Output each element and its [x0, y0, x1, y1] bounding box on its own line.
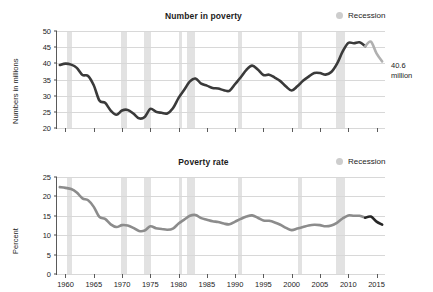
x-tick-mark	[235, 128, 236, 132]
x-tick-label: 1990	[227, 280, 244, 289]
x-tick-mark	[348, 274, 349, 278]
x-tick-mark	[377, 128, 378, 132]
x-tick-mark	[150, 128, 151, 132]
recession-swatch-icon	[336, 12, 343, 19]
x-tick-label: 1995	[255, 280, 272, 289]
y-tick-label: 50	[43, 27, 51, 36]
y-tick-label: 0	[47, 270, 51, 279]
x-tick-mark	[122, 128, 123, 132]
y-tick-label: 20	[43, 192, 51, 201]
series-line	[57, 31, 385, 128]
y-tick-label: 5	[47, 250, 51, 259]
x-tick-label: 2015	[368, 280, 385, 289]
x-tick-mark	[94, 128, 95, 132]
recession-swatch-icon	[336, 158, 343, 165]
panel-poverty-rate: Poverty rate Recession Percent 051015202…	[0, 146, 433, 292]
x-tick-label: 1970	[114, 280, 131, 289]
plot-area-bottom: 0510152025196019651970197519801985199019…	[57, 177, 385, 274]
series-segment-main	[60, 42, 365, 118]
legend-label-recession: Recession	[348, 157, 385, 166]
x-tick-mark	[65, 128, 66, 132]
x-tick-mark	[207, 128, 208, 132]
annotation-top: 40.6 million	[391, 61, 412, 80]
x-tick-mark	[122, 274, 123, 278]
x-tick-label: 2010	[340, 280, 357, 289]
poverty-charts-figure: Number in poverty Recession Numbers in m…	[0, 0, 433, 292]
x-tick-label: 1975	[142, 280, 159, 289]
x-tick-mark	[94, 274, 95, 278]
y-axis-label-top: Numbers in millions	[11, 59, 20, 124]
x-tick-mark	[348, 128, 349, 132]
y-tick-label: 30	[43, 91, 51, 100]
plot-area-top: 20253035404550	[57, 31, 385, 128]
y-axis-label-bottom: Percent	[11, 228, 20, 254]
x-tick-label: 1960	[57, 280, 74, 289]
annotation-top-unit: million	[391, 71, 412, 81]
y-tick-label: 25	[43, 173, 51, 182]
series-line	[57, 177, 385, 274]
y-tick-label: 25	[43, 107, 51, 116]
x-tick-mark	[179, 128, 180, 132]
legend-bottom: Recession	[336, 157, 385, 166]
gridline	[57, 128, 385, 129]
y-tick-label: 40	[43, 59, 51, 68]
x-tick-mark	[320, 128, 321, 132]
x-tick-mark	[292, 128, 293, 132]
y-tick-label: 10	[43, 231, 51, 240]
x-tick-mark	[207, 274, 208, 278]
x-tick-mark	[377, 274, 378, 278]
panel-number-in-poverty: Number in poverty Recession Numbers in m…	[0, 0, 433, 146]
legend-top: Recession	[336, 11, 385, 20]
x-tick-label: 2000	[283, 280, 300, 289]
x-tick-mark	[150, 274, 151, 278]
legend-label-recession: Recession	[348, 11, 385, 20]
series-segment-tail	[365, 216, 382, 224]
x-tick-mark	[65, 274, 66, 278]
y-tick-label: 15	[43, 211, 51, 220]
series-segment-main	[60, 187, 365, 231]
x-tick-mark	[179, 274, 180, 278]
x-tick-mark	[292, 274, 293, 278]
gridline	[57, 274, 385, 275]
x-tick-label: 1965	[85, 280, 102, 289]
x-tick-mark	[263, 128, 264, 132]
x-tick-label: 1985	[199, 280, 216, 289]
x-tick-mark	[263, 274, 264, 278]
y-tick-label: 35	[43, 75, 51, 84]
x-tick-mark	[320, 274, 321, 278]
y-tick-label: 45	[43, 43, 51, 52]
x-tick-label: 2005	[312, 280, 329, 289]
annotation-top-value: 40.6	[391, 61, 412, 71]
x-tick-mark	[235, 274, 236, 278]
y-tick-label: 20	[43, 124, 51, 133]
series-segment-tail	[365, 41, 382, 61]
x-tick-label: 1980	[170, 280, 187, 289]
